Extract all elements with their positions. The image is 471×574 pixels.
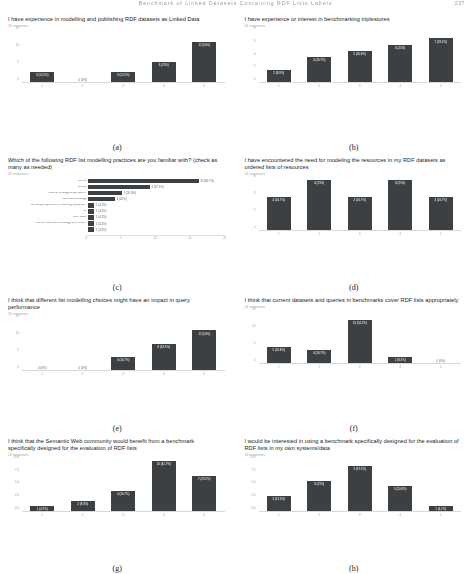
figure-panel: I think that the Semantic Web community …	[0, 434, 235, 574]
x-axis: 12345	[22, 84, 225, 91]
bar-value-label: 1 (4.2%)	[37, 507, 48, 511]
y-axis-tick-label: 2	[254, 208, 256, 212]
bar-series: 3 (12.5%)6 (25%)9 (37.5%)5 (20.8%)1 (4.2…	[259, 461, 462, 511]
panel-letter: (f)	[237, 424, 471, 433]
x-axis-tick-label: 3	[340, 513, 381, 520]
question-title: I have encountered the need for modeling…	[245, 157, 460, 171]
y-axis-tick-label: 4	[254, 191, 256, 195]
bar: 5 (20.8%)	[348, 51, 372, 82]
bar-row: no1 (4.2%)	[8, 209, 227, 213]
bar-slot: 4 (16.7%)	[259, 180, 300, 230]
response-count: 24 responses	[8, 312, 227, 316]
bar-value-label: 6 (25%)	[395, 46, 405, 50]
category-label: I use the Collection technology from Pro…	[8, 222, 88, 225]
bar-value-label: 1 (4.2%)	[96, 215, 107, 219]
y-axis-tick-label: 10	[16, 331, 19, 335]
panel-letter: (b)	[237, 143, 471, 152]
bar-value-label: 6 (25%)	[159, 63, 169, 67]
y-axis-tick-label: 4	[254, 52, 256, 56]
bar-slot: 4 (16.7%)	[421, 180, 462, 230]
bar: 1 (4.2%)	[429, 506, 453, 511]
bar-wrapper: 5 (20.8%)	[88, 191, 227, 195]
bar: 6 (25%)	[152, 62, 176, 82]
bar-value-label: 6 (25%)	[314, 482, 324, 486]
bar-value-label: 6 (25%)	[395, 181, 405, 185]
x-axis-tick-label: 1	[259, 232, 300, 239]
x-axis-tick-label: 5	[421, 84, 462, 91]
x-axis-tick-label: 4	[144, 513, 185, 520]
figure-panel-grid: I have experience in modelling and publi…	[0, 12, 471, 574]
category-label: rdf:Seq	[8, 186, 88, 189]
bar-value-label: 2 (8.3%)	[77, 502, 88, 506]
bar-value-label: 1 (4.2%)	[435, 507, 446, 511]
bar: 7 (29.2%)	[192, 476, 216, 511]
response-count: 24 responses	[245, 24, 464, 28]
bar-wrapper: 1 (4.2%)	[88, 215, 227, 219]
bar-value-label: 12 (50%)	[198, 43, 210, 47]
bar	[88, 197, 116, 201]
bar-series: 2 (8.3%)4 (16.7%)5 (20.8%)6 (25%)7 (29.2…	[259, 32, 462, 82]
bar: 10 (41.7%)	[152, 461, 176, 511]
bar: 4 (16.7%)	[111, 357, 135, 370]
bar-value-label: 6 (25%)	[314, 181, 324, 185]
bar-slot: 5 (20.8%)	[380, 461, 421, 511]
bar-value-label: 0 (0%)	[78, 78, 87, 82]
x-axis-tick-label: 3	[103, 84, 144, 91]
bar-value-label: 9 (37.5%)	[152, 185, 164, 189]
bar	[88, 209, 95, 213]
bar-series: 3 (12.5%)0 (0%)3 (12.5%)6 (25%)12 (50%)	[22, 32, 225, 82]
bar-value-label: 2 (8.3%)	[395, 358, 406, 362]
bar-value-label: 8 (33.3%)	[157, 345, 170, 349]
y-axis: 0.02.55.07.510.0	[245, 461, 258, 512]
bar-value-label: 4 (16.7%)	[313, 58, 326, 62]
bar-slot: 6 (25%)	[299, 461, 340, 511]
survey-question-card: I think that different list modelling ch…	[8, 297, 227, 380]
bar-slot: 4 (16.7%)	[103, 461, 144, 511]
bar: 6 (25%)	[307, 481, 331, 511]
bar-slot: 12 (50%)	[184, 320, 225, 370]
bar-chart: rdf:List16 (66.7%)rdf:Seq9 (37.5%)I have…	[8, 178, 227, 240]
x-axis-tick-label: 1	[22, 513, 63, 520]
bar: 6 (25%)	[307, 180, 331, 230]
category-label: Don't know	[8, 216, 88, 219]
bar-series: 5 (20.8%)4 (16.7%)13 (54.2%)2 (8.3%)0 (0…	[259, 313, 462, 363]
bar-slot: 8 (33.3%)	[144, 320, 185, 370]
bar: 3 (12.5%)	[267, 496, 291, 511]
bar: 7 (29.2%)	[429, 38, 453, 82]
bar-value-label: 1 (4.2%)	[96, 228, 107, 232]
x-axis-tick-label: 5	[184, 372, 225, 379]
category-label: rdf:List	[8, 180, 88, 183]
bar: 12 (50%)	[192, 42, 216, 82]
response-count: 24 responses	[245, 453, 464, 457]
y-axis-tick-label: 10	[16, 43, 19, 47]
y-axis: 051015	[8, 320, 21, 371]
x-axis-tick-label: 5	[120, 236, 122, 240]
question-title: I would be interested in using a benchma…	[245, 438, 460, 452]
bar	[88, 215, 95, 219]
bar-wrapper: 9 (37.5%)	[88, 185, 227, 189]
bar-slot: 6 (25%)	[380, 32, 421, 82]
question-title: I think that the Semantic Web community …	[8, 438, 223, 452]
plot-area: 5 (20.8%)4 (16.7%)13 (54.2%)2 (8.3%)0 (0…	[259, 313, 462, 364]
figure-panel: I have experience or interest in benchma…	[237, 12, 471, 153]
bar: 2 (8.3%)	[267, 70, 291, 83]
bar: 4 (16.7%)	[307, 350, 331, 363]
panel-letter: (c)	[0, 283, 235, 292]
bar-slot: 4 (16.7%)	[299, 313, 340, 363]
x-axis: 12345	[259, 513, 462, 520]
bar-row: I have an ontology design pattern5 (20.8…	[8, 191, 227, 195]
x-axis-tick-label: 2	[299, 232, 340, 239]
y-axis-tick-label: 10.0	[249, 455, 255, 459]
y-axis: 051015	[8, 32, 21, 83]
x-axis: 12345	[259, 84, 462, 91]
bar: 12 (50%)	[192, 330, 216, 370]
bar: 4 (16.7%)	[111, 491, 135, 511]
y-axis-tick-label: 7.5	[251, 468, 255, 472]
bar-value-label: 16 (66.7%)	[200, 179, 214, 183]
bar-value-label: 9 (37.5%)	[353, 467, 366, 471]
bar-value-label: 1 (4.2%)	[96, 209, 107, 213]
bar-wrapper: 1 (4.2%)	[88, 221, 227, 225]
plot-area: 2 (8.3%)4 (16.7%)5 (20.8%)6 (25%)7 (29.2…	[259, 32, 462, 83]
plot-area: 1 (4.2%)2 (8.3%)4 (16.7%)10 (41.7%)7 (29…	[22, 461, 225, 512]
figure-panel: I think that current datasets and querie…	[237, 293, 471, 434]
